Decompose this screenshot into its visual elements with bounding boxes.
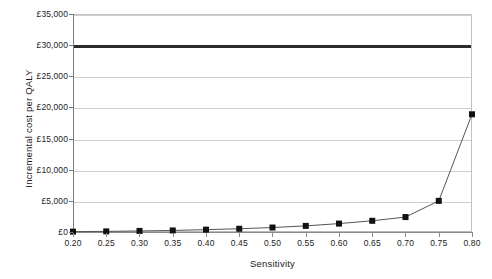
x-axis-tick-label: 0.60 [331, 238, 348, 248]
gridline [74, 15, 471, 16]
x-axis-tick-mark [472, 233, 473, 237]
x-axis-tick-label: 0.80 [464, 238, 481, 248]
x-axis-tick-label: 0.70 [397, 238, 414, 248]
y-axis-tick-label: £15,000 [37, 134, 68, 144]
x-axis-tick-mark [306, 233, 307, 237]
x-axis-tick-label: 0.20 [65, 238, 82, 248]
x-axis-tick-label: 0.75 [430, 238, 447, 248]
gridline [74, 108, 471, 109]
y-axis-tick-label: £0 [58, 227, 68, 237]
y-axis-tick-label: £30,000 [37, 40, 68, 50]
x-axis-tick-mark [372, 233, 373, 237]
x-axis-tick-label: 0.30 [131, 238, 148, 248]
x-axis-tick-mark [206, 233, 207, 237]
y-axis-title: Incremental cost per QALY [23, 29, 34, 229]
y-axis-tick-label: £35,000 [37, 9, 68, 19]
x-axis-line [73, 232, 473, 233]
x-axis-tick-mark [339, 233, 340, 237]
x-axis-tick-mark [439, 233, 440, 237]
y-axis-tick-mark [69, 201, 73, 202]
plot-area [73, 14, 472, 232]
threshold-line [74, 45, 471, 48]
x-axis-tick-mark [139, 233, 140, 237]
x-axis-tick-label: 0.50 [264, 238, 281, 248]
x-axis-tick-label: 0.65 [364, 238, 381, 248]
y-axis-tick-label: £10,000 [37, 165, 68, 175]
gridline [74, 77, 471, 78]
x-axis-tick-mark [239, 233, 240, 237]
x-axis-tick-mark [272, 233, 273, 237]
x-axis-tick-label: 0.55 [297, 238, 314, 248]
y-axis-tick-labels: £35,000£30,000£25,000£20,000£15,000£10,0… [0, 0, 68, 279]
cost-effectiveness-chart: £35,000£30,000£25,000£20,000£15,000£10,0… [0, 0, 492, 279]
y-axis-tick-label: £5,000 [41, 196, 68, 206]
x-axis-tick-mark [73, 233, 74, 237]
y-axis-tick-mark [69, 76, 73, 77]
gridline [74, 171, 471, 172]
y-axis-tick-mark [69, 45, 73, 46]
x-axis-title: Sensitivity [73, 258, 472, 269]
x-axis-tick-label: 0.25 [98, 238, 115, 248]
y-axis-tick-label: £25,000 [37, 71, 68, 81]
gridline [74, 202, 471, 203]
x-axis-tick-label: 0.35 [164, 238, 181, 248]
y-axis-tick-mark [69, 14, 73, 15]
y-axis-tick-label: £20,000 [37, 102, 68, 112]
y-axis-tick-mark [69, 107, 73, 108]
x-axis-tick-mark [405, 233, 406, 237]
x-axis-tick-label: 0.45 [231, 238, 248, 248]
y-axis-line [73, 14, 74, 233]
gridline [74, 140, 471, 141]
x-axis-tick-mark [106, 233, 107, 237]
y-axis-tick-mark [69, 170, 73, 171]
x-axis-tick-mark [173, 233, 174, 237]
x-axis-tick-label: 0.40 [198, 238, 215, 248]
y-axis-tick-mark [69, 139, 73, 140]
